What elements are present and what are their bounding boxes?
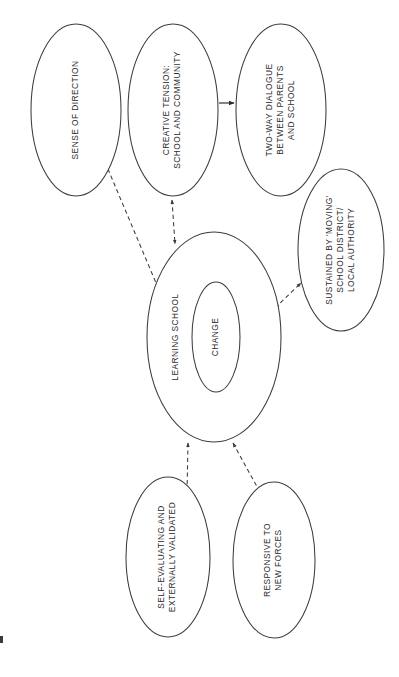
- creative-tension-label-line-1: CREATIVE TENSION:: [161, 65, 171, 156]
- diagram-canvas: SENSE OF DIRECTION CREATIVE TENSION: SCH…: [0, 0, 399, 677]
- sustained-by-moving-node[interactable]: SUSTAINED BY 'MOVING' SCHOOL DISTRICT/ L…: [298, 169, 384, 331]
- self-evaluating-label-line-1: SELF-EVALUATING AND: [156, 505, 166, 609]
- sustained-by-moving-label-group: SUSTAINED BY 'MOVING' SCHOOL DISTRICT/ L…: [324, 195, 356, 305]
- responsive-new-forces-label-line-2: NEW FORCES: [273, 529, 283, 590]
- sustained-by-moving-label-line-2: SCHOOL DISTRICT/: [335, 207, 345, 293]
- responsive-new-forces-label-group: RESPONSIVE TO NEW FORCES: [262, 523, 283, 597]
- edge-responsive-new-forces-to-learning-school: [233, 443, 261, 494]
- two-way-dialogue-label-line-1: TWO-WAY DIALOGUE: [264, 63, 274, 156]
- edge-self-evaluating-to-learning-school: [187, 443, 188, 492]
- self-evaluating-label-line-2: EXTERNALLY VALIDATED: [167, 502, 177, 612]
- creative-tension-node[interactable]: CREATIVE TENSION: SCHOOL AND COMMUNITY: [128, 24, 218, 196]
- two-way-dialogue-label-line-2: BETWEEN PARENTS: [275, 65, 285, 154]
- change-node[interactable]: CHANGE: [192, 282, 240, 392]
- learning-school-label-group: LEARNING SCHOOL: [170, 293, 180, 380]
- sense-of-direction-node[interactable]: SENSE OF DIRECTION: [31, 24, 121, 196]
- learning-school-diagram: SENSE OF DIRECTION CREATIVE TENSION: SCH…: [0, 0, 399, 677]
- learning-school-label: LEARNING SCHOOL: [170, 293, 180, 380]
- two-way-dialogue-label-line-3: AND SCHOOL: [286, 80, 296, 140]
- edge-sustained-by-moving-to-learning-school: [275, 283, 301, 308]
- two-way-dialogue-node[interactable]: TWO-WAY DIALOGUE BETWEEN PARENTS AND SCH…: [236, 24, 326, 196]
- responsive-new-forces-label-line-1: RESPONSIVE TO: [262, 523, 272, 597]
- edge-creative-tension-to-learning-school: [172, 200, 175, 244]
- change-label: CHANGE: [210, 318, 220, 357]
- sense-of-direction-label-group: SENSE OF DIRECTION: [70, 61, 80, 160]
- sustained-by-moving-label-line-1: SUSTAINED BY 'MOVING': [324, 195, 334, 305]
- responsive-new-forces-node[interactable]: RESPONSIVE TO NEW FORCES: [233, 482, 315, 638]
- creative-tension-label-line-2: SCHOOL AND COMMUNITY: [172, 51, 182, 169]
- sustained-by-moving-label-line-3: LOCAL AUTHORITY: [346, 208, 356, 292]
- change-label-group: CHANGE: [210, 318, 220, 357]
- page-margin-mark: [0, 636, 3, 643]
- creative-tension-label-group: CREATIVE TENSION: SCHOOL AND COMMUNITY: [161, 51, 182, 169]
- self-evaluating-node[interactable]: SELF-EVALUATING AND EXTERNALLY VALIDATED: [126, 477, 210, 637]
- sense-of-direction-label-line-1: SENSE OF DIRECTION: [70, 61, 80, 160]
- self-evaluating-label-group: SELF-EVALUATING AND EXTERNALLY VALIDATED: [156, 502, 177, 612]
